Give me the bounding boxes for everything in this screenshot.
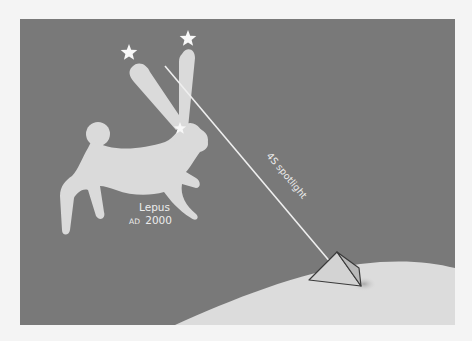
epoch-prefix: AD [129,217,140,226]
epoch-year: 2000 [145,214,172,226]
lepus-spotlight-illustration: Lepus AD 2000 4S spotlight [0,0,472,341]
constellation-name-label: Lepus [139,201,170,213]
